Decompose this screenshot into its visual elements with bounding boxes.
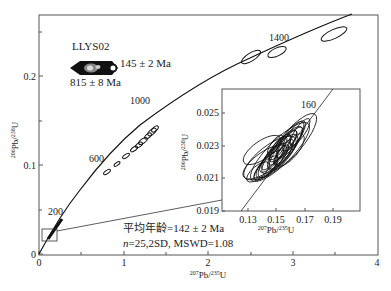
inset-x-tick-0.15: 0.15 xyxy=(267,214,285,225)
zircon-cl-image xyxy=(70,61,118,75)
main-x-ticks xyxy=(39,251,335,255)
age-label-1000: 1000 xyxy=(130,95,150,106)
inset-x-tick-0.17: 0.17 xyxy=(296,214,314,225)
y-tick-0.1: 0.1 xyxy=(24,160,37,171)
age-label-200: 200 xyxy=(48,206,63,217)
x-tick-3: 3 xyxy=(291,257,296,268)
stats-text: n=25,2SD, MSWD=1.08 xyxy=(123,237,234,249)
inset-x-tick-0.13: 0.13 xyxy=(239,214,257,225)
concordia-chart: 0 0.1 0.2 0 1 2 3 4 207Pb/235U 206Pb/238… xyxy=(0,0,391,291)
inset-plot: 0.025 0.023 0.021 0.019 0.13 0.15 0.17 0… xyxy=(180,89,360,235)
mean-age-text: 平均年龄=142 ± 2 Ma xyxy=(123,221,224,234)
x-tick-4: 4 xyxy=(375,257,380,268)
sample-label: LLYS02 xyxy=(72,40,109,52)
grain-age-815: 815 ± 8 Ma xyxy=(70,76,121,88)
y-axis-label: 206Pb/238U xyxy=(10,121,20,158)
inset-y-tick-0.025: 0.025 xyxy=(197,107,220,118)
age-label-600: 600 xyxy=(89,153,104,164)
inset-y-tick-0.019: 0.019 xyxy=(197,205,220,216)
inset-y-axis-label: 206Pb/238U xyxy=(180,133,190,170)
inset-x-axis-label: 207Pb/235U xyxy=(258,225,295,235)
x-tick-1: 1 xyxy=(122,257,127,268)
y-tick-0.2: 0.2 xyxy=(24,71,37,82)
grain-age-145: 145 ± 2 Ma xyxy=(120,57,171,69)
x-tick-0: 0 xyxy=(37,257,42,268)
inset-y-tick-0.021: 0.021 xyxy=(197,172,220,183)
inset-y-tick-0.023: 0.023 xyxy=(197,140,220,151)
inset-x-tick-0.19: 0.19 xyxy=(324,214,342,225)
x-tick-2: 2 xyxy=(206,257,211,268)
y-tick-0: 0 xyxy=(31,249,36,260)
main-y-ticks xyxy=(39,32,43,254)
x-axis-label: 207Pb/235U xyxy=(190,270,227,280)
age-label-160: 160 xyxy=(301,99,316,110)
age-label-1400: 1400 xyxy=(269,32,289,43)
